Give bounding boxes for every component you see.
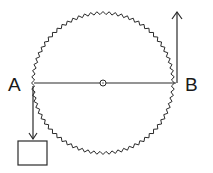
label-b: B (185, 75, 198, 94)
load-box (18, 141, 47, 165)
wheel-diagram (0, 0, 213, 173)
label-a: A (8, 75, 21, 94)
axle-dot (102, 82, 103, 83)
arrow-down-at-a (29, 86, 37, 139)
arrow-up-at-b (172, 12, 182, 83)
